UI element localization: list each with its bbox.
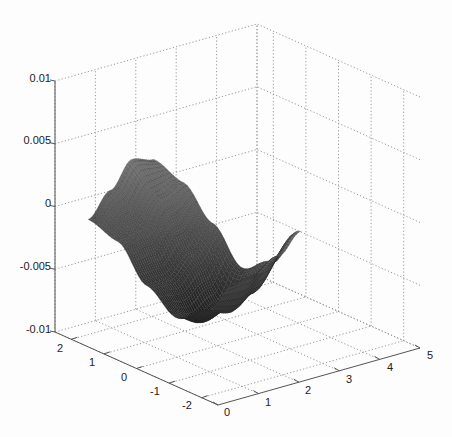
x-tick-label-2: 2 (305, 385, 311, 396)
axes (50, 80, 420, 405)
x-tick-label-1: 1 (265, 397, 271, 408)
x-tick-label-0: 0 (224, 407, 230, 418)
y-tick-label--1: -1 (150, 386, 160, 397)
z-tick-label-0: 0 (7, 198, 51, 209)
z-tick-label--0.005: -0.005 (7, 261, 51, 272)
y-tick-label-0: 0 (121, 372, 127, 383)
x-tick-label-3: 3 (346, 374, 352, 385)
y-tick-label-1: 1 (89, 357, 95, 368)
y-tick-label-2: 2 (57, 343, 63, 354)
y-tick-label--2: -2 (182, 400, 192, 411)
x-tick-label-5: 5 (427, 350, 433, 361)
z-tick-label--0.01: -0.01 (7, 324, 51, 335)
z-tick-label-0.01: 0.01 (7, 73, 51, 84)
x-tick-label-4: 4 (387, 362, 393, 373)
z-tick-label-0.005: 0.005 (7, 135, 51, 146)
surface-plot-3d (0, 0, 452, 437)
figure: 0.01 0.005 0 -0.005 -0.01 2 1 0 -1 -2 0 … (0, 0, 452, 437)
surface-mesh (88, 159, 301, 323)
